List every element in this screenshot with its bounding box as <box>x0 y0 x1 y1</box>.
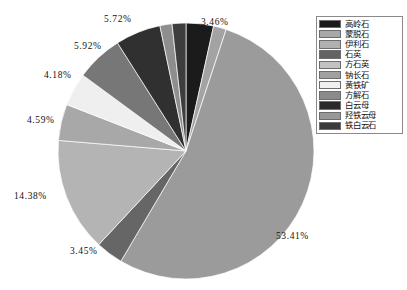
legend-swatch <box>319 61 341 69</box>
legend-swatch <box>319 101 341 109</box>
legend-item[interactable]: 黄铁矿 <box>319 80 400 90</box>
legend-item[interactable]: 蒙脱石 <box>319 29 400 39</box>
legend-item[interactable]: 伊利石 <box>319 39 400 49</box>
pie-label-4-59: 4.59% <box>27 115 55 125</box>
legend-label: 钠长石 <box>345 71 368 80</box>
legend-label: 伊利石 <box>345 40 368 49</box>
legend-label: 方石英 <box>345 60 368 69</box>
legend-swatch <box>319 71 341 79</box>
legend-label: 羟铁云母 <box>345 111 376 120</box>
legend-item[interactable]: 方石英 <box>319 60 400 70</box>
legend-swatch <box>319 122 341 130</box>
legend: 高岭石蒙脱石伊利石石英方石英钠长石黄铁矿方解石白云母羟铁云母铁白云石 <box>316 16 403 134</box>
pie-label-3-46: 3.46% <box>201 17 229 27</box>
legend-label: 蒙脱石 <box>345 30 368 39</box>
legend-item[interactable]: 羟铁云母 <box>319 111 400 121</box>
legend-item[interactable]: 方解石 <box>319 90 400 100</box>
pie-label-3-45: 3.45% <box>70 246 98 256</box>
legend-label: 铁白云石 <box>345 121 376 130</box>
pie-label-5-72: 5.72% <box>104 14 132 24</box>
legend-label: 黄铁矿 <box>345 81 368 90</box>
legend-swatch <box>319 91 341 99</box>
legend-item[interactable]: 白云母 <box>319 101 400 111</box>
legend-label: 白云母 <box>345 101 368 110</box>
legend-item[interactable]: 铁白云石 <box>319 121 400 131</box>
legend-swatch <box>319 30 341 38</box>
legend-label: 石英 <box>345 50 361 59</box>
legend-item[interactable]: 高岭石 <box>319 19 400 29</box>
legend-label: 高岭石 <box>345 20 368 29</box>
legend-swatch <box>319 20 341 28</box>
legend-item[interactable]: 钠长石 <box>319 70 400 80</box>
pie-label-14-38: 14.38% <box>14 191 47 201</box>
legend-swatch <box>319 50 341 58</box>
legend-swatch <box>319 40 341 48</box>
legend-item[interactable]: 石英 <box>319 50 400 60</box>
legend-label: 方解石 <box>345 91 368 100</box>
chart-canvas: 5.72% 3.46% 5.92% 4.18% 4.59% 14.38% 3.4… <box>0 0 407 290</box>
pie-label-4-18: 4.18% <box>44 70 72 80</box>
pie-label-53-41: 53.41% <box>276 231 309 241</box>
legend-swatch <box>319 112 341 120</box>
pie-label-5-92: 5.92% <box>74 41 102 51</box>
legend-swatch <box>319 81 341 89</box>
